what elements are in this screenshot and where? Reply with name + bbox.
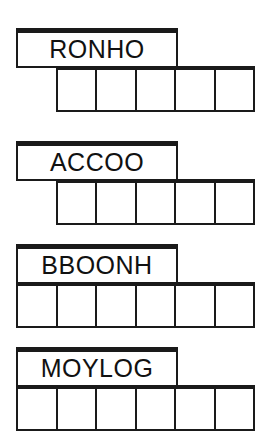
- answer-cell[interactable]: [18, 389, 58, 429]
- answer-cell[interactable]: [176, 389, 216, 429]
- answer-cell[interactable]: [97, 70, 136, 110]
- answer-cell-row: [56, 66, 255, 112]
- scrambled-word-box: RONHO: [16, 28, 178, 68]
- answer-cell[interactable]: [216, 183, 253, 223]
- answer-cell[interactable]: [137, 286, 177, 326]
- scrambled-word-text: RONHO: [49, 37, 145, 62]
- answer-cell[interactable]: [216, 70, 253, 110]
- scrambled-word-text: BBOONH: [41, 253, 152, 278]
- answer-cell-row: [56, 179, 255, 225]
- puzzle-sheet: RONHOACCOOBBOONHMOYLOG: [0, 0, 268, 442]
- answer-cell-row: [16, 282, 255, 328]
- scrambled-word-text: MOYLOG: [41, 356, 154, 381]
- scrambled-word-text: ACCOO: [50, 150, 144, 175]
- answer-cell[interactable]: [137, 70, 176, 110]
- answer-cell[interactable]: [176, 286, 216, 326]
- answer-cell[interactable]: [58, 286, 98, 326]
- answer-cell[interactable]: [216, 286, 254, 326]
- answer-cell[interactable]: [58, 389, 98, 429]
- answer-cell[interactable]: [97, 286, 137, 326]
- scrambled-word-box: MOYLOG: [16, 347, 178, 387]
- answer-cell[interactable]: [97, 389, 137, 429]
- scrambled-word-box: BBOONH: [16, 244, 178, 284]
- answer-cell[interactable]: [18, 286, 58, 326]
- answer-cell-row: [16, 385, 255, 431]
- answer-cell[interactable]: [58, 183, 97, 223]
- scrambled-word-box: ACCOO: [16, 141, 178, 181]
- answer-cell[interactable]: [176, 183, 215, 223]
- answer-cell[interactable]: [137, 183, 176, 223]
- answer-cell[interactable]: [58, 70, 97, 110]
- answer-cell[interactable]: [176, 70, 215, 110]
- answer-cell[interactable]: [137, 389, 177, 429]
- answer-cell[interactable]: [216, 389, 254, 429]
- answer-cell[interactable]: [97, 183, 136, 223]
